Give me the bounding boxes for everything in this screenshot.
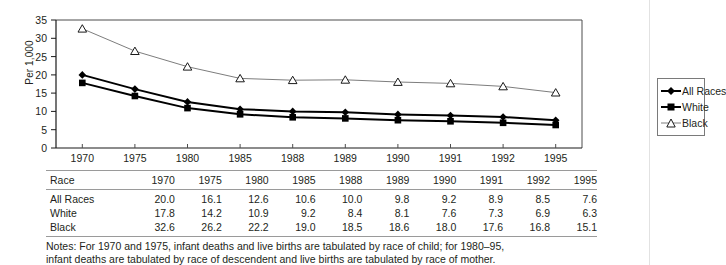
- row-label: All Races: [46, 190, 128, 207]
- notes-line-2: infant deaths are tabulated by race of d…: [46, 253, 646, 265]
- legend-item-all-races: All Races: [660, 83, 701, 99]
- x-tick-label: 1989: [319, 152, 372, 164]
- series-white: [79, 80, 559, 129]
- table-cell: 22.2: [222, 220, 269, 237]
- data-table-wrap: Race 1970 1975 1980 1985 1988 1989 1990 …: [46, 170, 597, 237]
- figure-notes: Notes: For 1970 and 1975, infant deaths …: [46, 240, 646, 265]
- x-tick-label: 1991: [424, 152, 477, 164]
- table-cell: 26.2: [175, 220, 222, 237]
- svg-text:20: 20: [35, 69, 47, 81]
- page-guide-rule: [649, 0, 650, 265]
- y-axis-ticks: 35 30 25 20 15 10 5 0: [35, 14, 56, 154]
- diamond-marker-icon: [660, 84, 682, 98]
- column-header-year: 1992: [503, 171, 550, 190]
- svg-text:25: 25: [35, 51, 47, 63]
- table-cell: 6.9: [503, 206, 550, 220]
- x-tick-label: 1980: [161, 152, 214, 164]
- column-header-year: 1980: [222, 171, 269, 190]
- column-header-year: 1970: [128, 171, 175, 190]
- table-cell: 19.0: [269, 220, 316, 237]
- legend-item-white: White: [660, 99, 701, 115]
- table-cell: 17.6: [456, 220, 503, 237]
- column-header-year: 1995: [550, 171, 597, 190]
- table-cell: 16.8: [503, 220, 550, 237]
- legend-label: Black: [682, 116, 708, 130]
- triangle-marker-icon: [660, 116, 682, 130]
- table-cell: 8.4: [316, 206, 363, 220]
- table-cell: 12.6: [222, 190, 269, 207]
- svg-text:0: 0: [41, 142, 47, 154]
- table-cell: 32.6: [128, 220, 175, 237]
- table-cell: 18.0: [409, 220, 456, 237]
- square-marker-icon: [660, 100, 682, 114]
- table-row: All Races 20.0 16.1 12.6 10.6 10.0 9.8 9…: [46, 190, 597, 207]
- row-label: Black: [46, 220, 128, 237]
- table-cell: 10.9: [222, 206, 269, 220]
- column-header-year: 1988: [316, 171, 363, 190]
- table-row: White 17.8 14.2 10.9 9.2 8.4 8.1 7.6 7.3…: [46, 206, 597, 220]
- chart-plot-area: Per 1,000 35 30 25: [0, 0, 600, 170]
- table-cell: 15.1: [550, 220, 597, 237]
- series-black: [78, 25, 560, 96]
- x-tick-label: 1970: [56, 152, 109, 164]
- table-cell: 7.6: [550, 190, 597, 207]
- chart-legend: All Races White Black: [657, 78, 705, 136]
- column-header-year: 1985: [269, 171, 316, 190]
- column-header-year: 1989: [362, 171, 409, 190]
- svg-text:5: 5: [41, 124, 47, 136]
- table-cell: 7.6: [409, 206, 456, 220]
- table-cell: 7.3: [456, 206, 503, 220]
- table-cell: 18.5: [316, 220, 363, 237]
- data-table: Race 1970 1975 1980 1985 1988 1989 1990 …: [46, 170, 597, 237]
- x-tick-label: 1975: [109, 152, 162, 164]
- legend-label: White: [682, 100, 709, 114]
- column-header-year: 1975: [175, 171, 222, 190]
- table-cell: 10.6: [269, 190, 316, 207]
- x-tick-label: 1990: [372, 152, 425, 164]
- table-cell: 14.2: [175, 206, 222, 220]
- table-cell: 20.0: [128, 190, 175, 207]
- line-chart-svg: 35 30 25 20 15 10 5 0: [0, 0, 600, 170]
- table-cell: 8.9: [456, 190, 503, 207]
- table-cell: 18.6: [362, 220, 409, 237]
- table-row: Black 32.6 26.2 22.2 19.0 18.5 18.6 18.0…: [46, 220, 597, 237]
- table-cell: 10.0: [316, 190, 363, 207]
- x-tick-label: 1985: [214, 152, 267, 164]
- svg-text:15: 15: [35, 87, 47, 99]
- table-cell: 9.8: [362, 190, 409, 207]
- x-tick-label: 1995: [529, 152, 582, 164]
- series-all-races: [79, 71, 560, 124]
- x-tick-label: 1992: [477, 152, 530, 164]
- svg-text:30: 30: [35, 32, 47, 44]
- svg-text:10: 10: [35, 105, 47, 117]
- legend-label: All Races: [682, 84, 726, 98]
- svg-text:35: 35: [35, 14, 47, 26]
- legend-item-black: Black: [660, 115, 701, 131]
- table-cell: 16.1: [175, 190, 222, 207]
- column-header-year: 1991: [456, 171, 503, 190]
- x-axis-labels: 1970 1975 1980 1985 1988 1989 1990 1991 …: [56, 152, 582, 164]
- column-header-race: Race: [46, 171, 128, 190]
- row-label: White: [46, 206, 128, 220]
- table-cell: 8.1: [362, 206, 409, 220]
- table-cell: 9.2: [409, 190, 456, 207]
- table-header-row: Race 1970 1975 1980 1985 1988 1989 1990 …: [46, 171, 597, 190]
- x-tick-label: 1988: [266, 152, 319, 164]
- table-cell: 17.8: [128, 206, 175, 220]
- table-cell: 9.2: [269, 206, 316, 220]
- notes-line-1: Notes: For 1970 and 1975, infant deaths …: [46, 240, 646, 253]
- table-cell: 8.5: [503, 190, 550, 207]
- table-cell: 6.3: [550, 206, 597, 220]
- column-header-year: 1990: [409, 171, 456, 190]
